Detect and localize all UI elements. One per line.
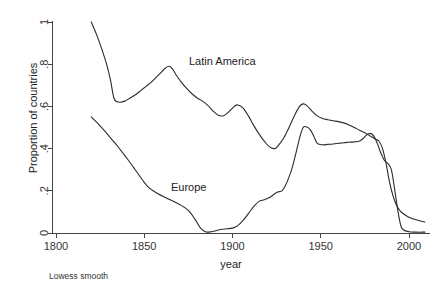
series-label-latin-america: Latin America — [189, 55, 256, 67]
series-line-latin-america — [91, 22, 425, 222]
series-line-europe — [91, 117, 425, 232]
x-tick-label: 1850 — [132, 240, 156, 252]
lowess-smooth-note: Lowess smooth — [49, 271, 108, 281]
y-axis-title-text: Proportion of countries — [27, 38, 39, 198]
y-tick-label: .8 — [38, 60, 50, 69]
y-tick-label: .6 — [38, 102, 50, 111]
y-tick-label: 0 — [38, 230, 50, 236]
lowess-smooth-line-chart: 0.2.4.6.8118001850190019502000 — [0, 0, 437, 295]
labels-group: 0.2.4.6.8118001850190019502000 — [38, 19, 421, 252]
chart-page: 0.2.4.6.8118001850190019502000 Proportio… — [0, 0, 437, 295]
y-tick-label: 1 — [38, 19, 50, 25]
series-label-europe: Europe — [171, 181, 206, 193]
x-tick-label: 1900 — [220, 240, 244, 252]
y-tick-label: .2 — [38, 186, 50, 195]
x-tick-label: 2000 — [397, 240, 421, 252]
x-axis-title-text: year — [186, 258, 276, 270]
x-tick-label: 1800 — [44, 240, 68, 252]
axes-group — [48, 21, 430, 238]
x-tick-label: 1950 — [309, 240, 333, 252]
y-tick-label: .4 — [38, 144, 50, 153]
series-group — [91, 22, 425, 232]
